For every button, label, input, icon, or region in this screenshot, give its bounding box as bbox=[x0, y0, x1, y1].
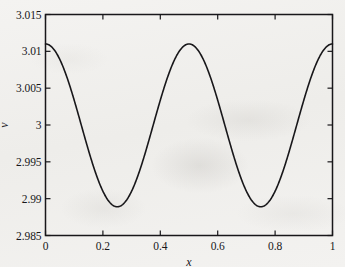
tick-marks bbox=[46, 15, 333, 236]
y-tick-label: 3.01 bbox=[22, 45, 42, 57]
x-tick-label: 0.2 bbox=[96, 240, 110, 252]
x-tick-label: 1 bbox=[330, 240, 336, 252]
plot-canvas bbox=[0, 0, 345, 267]
y-tick-label: 2.985 bbox=[16, 230, 41, 242]
y-tick-label: 3 bbox=[36, 119, 42, 131]
x-tick-label: 0.6 bbox=[211, 240, 225, 252]
y-tick-label: 3.005 bbox=[16, 82, 41, 94]
y-tick-label: 2.995 bbox=[16, 156, 41, 168]
data-curve-v bbox=[46, 44, 333, 207]
x-tick-label: 0 bbox=[43, 240, 49, 252]
x-tick-label: 0.8 bbox=[268, 240, 282, 252]
x-axis-title: x bbox=[186, 255, 191, 267]
x-tick-label: 0.4 bbox=[153, 240, 167, 252]
y-axis-title: v bbox=[0, 122, 12, 127]
figure-plot-v-vs-x: 2.9852.992.99533.0053.013.015 00.20.40.6… bbox=[0, 0, 345, 267]
y-tick-label: 2.99 bbox=[22, 193, 42, 205]
axes-frame bbox=[46, 15, 333, 236]
y-tick-label: 3.015 bbox=[16, 9, 41, 21]
